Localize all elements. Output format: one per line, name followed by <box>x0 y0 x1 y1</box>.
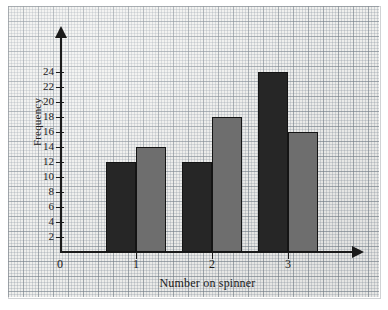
x-tick-label-2: 2 <box>200 258 224 270</box>
y-tick-14 <box>56 147 64 148</box>
y-tick-4 <box>56 222 64 223</box>
bar-chart-figure: 24681012141618202224 0123 Frequency Numb… <box>0 0 388 310</box>
y-tick-label-10: 10 <box>28 171 54 182</box>
y-tick-label-8: 8 <box>28 186 54 197</box>
y-tick-label-6: 6 <box>28 201 54 212</box>
bar-3-dark <box>258 72 288 252</box>
y-tick-18 <box>56 117 64 118</box>
y-tick-label-12: 12 <box>28 156 54 167</box>
x-axis-title: Number on spinner <box>60 276 355 291</box>
y-axis-line <box>60 36 62 252</box>
y-tick-12 <box>56 162 64 163</box>
bar-1-dark <box>106 162 136 252</box>
bar-2-dark <box>182 162 212 252</box>
y-tick-label-4: 4 <box>28 216 54 227</box>
y-tick-label-2: 2 <box>28 231 54 242</box>
graph-paper-background <box>8 6 379 297</box>
y-tick-6 <box>56 207 64 208</box>
y-tick-label-24: 24 <box>28 66 54 77</box>
y-tick-8 <box>56 192 64 193</box>
y-tick-2 <box>56 237 64 238</box>
y-tick-16 <box>56 132 64 133</box>
x-axis-arrow-icon <box>352 246 364 258</box>
y-tick-24 <box>56 72 64 73</box>
x-tick-label-1: 1 <box>124 258 148 270</box>
y-tick-22 <box>56 87 64 88</box>
bar-3-light <box>288 132 318 252</box>
y-axis-arrow-icon <box>55 26 67 38</box>
y-axis-title: Frequency <box>31 98 43 146</box>
y-tick-20 <box>56 102 64 103</box>
x-tick-label-3: 3 <box>276 258 300 270</box>
x-tick-label-0: 0 <box>48 258 72 270</box>
bar-1-light <box>136 147 166 252</box>
bar-2-light <box>212 117 242 252</box>
y-tick-10 <box>56 177 64 178</box>
y-tick-label-22: 22 <box>28 81 54 92</box>
